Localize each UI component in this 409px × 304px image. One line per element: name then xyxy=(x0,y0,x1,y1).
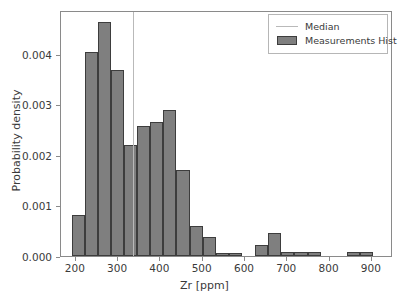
chart-legend[interactable]: Median Measurements Hist xyxy=(268,14,388,54)
x-tick-mark xyxy=(202,257,203,261)
y-axis-label: Probability density xyxy=(10,71,23,211)
y-tick-label: 0.002 xyxy=(22,150,52,162)
histogram-bar xyxy=(268,233,281,256)
histogram-figure: 200300400500600700800900 0.0000.0010.002… xyxy=(0,0,409,304)
y-tick-label: 0.000 xyxy=(22,251,52,263)
y-tick-mark xyxy=(56,55,60,56)
y-tick-mark xyxy=(56,206,60,207)
histogram-bar xyxy=(137,126,150,256)
histogram-bar xyxy=(203,237,216,256)
legend-item-median[interactable]: Median xyxy=(275,20,381,33)
histogram-bar xyxy=(150,122,163,256)
x-tick-label: 900 xyxy=(361,262,381,274)
legend-label-median: Median xyxy=(305,21,340,32)
y-tick-mark xyxy=(56,156,60,157)
y-tick-label: 0.001 xyxy=(22,200,52,212)
x-axis-label: Zr [ppm] xyxy=(0,279,409,292)
histogram-bar xyxy=(308,252,321,256)
histogram-patch-icon xyxy=(275,36,299,45)
x-tick-label: 300 xyxy=(107,262,127,274)
x-tick-label: 400 xyxy=(149,262,169,274)
median-line-icon xyxy=(275,26,299,28)
x-tick-mark xyxy=(371,257,372,261)
histogram-bar xyxy=(111,70,124,256)
y-tick-mark xyxy=(56,257,60,258)
histogram-bar xyxy=(360,252,373,256)
x-tick-label: 500 xyxy=(192,262,212,274)
histogram-bar xyxy=(216,253,229,256)
x-tick-mark xyxy=(117,257,118,261)
x-tick-mark xyxy=(244,257,245,261)
histogram-bar xyxy=(176,170,189,256)
x-tick-mark xyxy=(286,257,287,261)
histogram-bar xyxy=(190,226,203,256)
histogram-bar xyxy=(98,22,111,256)
x-tick-label: 600 xyxy=(234,262,254,274)
histogram-bar xyxy=(163,110,176,256)
histogram-bar xyxy=(255,245,268,256)
x-tick-mark xyxy=(159,257,160,261)
x-tick-mark xyxy=(75,257,76,261)
x-tick-label: 800 xyxy=(319,262,339,274)
x-tick-label: 700 xyxy=(276,262,296,274)
y-tick-label: 0.003 xyxy=(22,99,52,111)
histogram-bar xyxy=(124,145,137,256)
legend-item-measurements-hist[interactable]: Measurements Hist xyxy=(275,34,381,47)
histogram-bar xyxy=(72,215,85,257)
histogram-bar xyxy=(281,252,294,256)
legend-label-measurements-hist: Measurements Hist xyxy=(305,35,397,46)
y-tick-mark xyxy=(56,105,60,106)
median-line xyxy=(133,12,135,256)
histogram-bar xyxy=(294,252,307,256)
y-tick-label: 0.004 xyxy=(22,49,52,61)
histogram-bar xyxy=(229,253,242,256)
histogram-bar xyxy=(85,52,98,256)
histogram-bar xyxy=(347,252,360,256)
x-tick-label: 200 xyxy=(65,262,85,274)
x-tick-mark xyxy=(329,257,330,261)
